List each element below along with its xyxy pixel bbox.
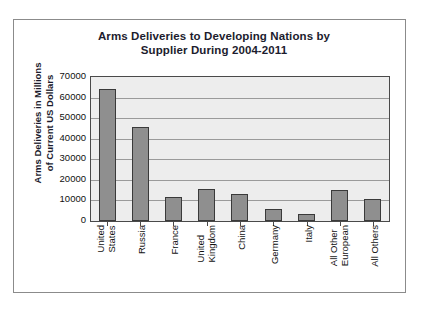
bar[interactable] xyxy=(132,127,149,221)
x-axis-tick-label-line-1: All Others xyxy=(369,225,380,267)
y-axis-tick-label: 10000 xyxy=(38,194,86,204)
x-slot: France xyxy=(157,223,190,309)
y-axis-tick-label: 60000 xyxy=(38,92,86,102)
x-axis-tick-label: UnitedStates xyxy=(95,225,117,252)
x-axis-tick-label-line-1: France xyxy=(169,225,180,255)
bar[interactable] xyxy=(298,214,315,221)
x-slot: UnitedStates xyxy=(90,223,123,309)
bar-slot xyxy=(223,77,256,221)
bar-slot xyxy=(157,77,190,221)
x-axis-tick-label-line-2: European xyxy=(339,225,350,266)
bar[interactable] xyxy=(231,194,248,221)
bar-slot xyxy=(124,77,157,221)
chart-figure: Arms Deliveries to Developing Nations by… xyxy=(0,0,429,313)
y-axis-tick-labels: 700006000050000400003000020000100000 xyxy=(38,70,86,228)
x-slot: All OtherEuropean xyxy=(323,223,356,309)
x-slot: Russia xyxy=(123,223,156,309)
x-axis-tick-label-line-1: All Other xyxy=(328,229,339,266)
x-axis-tick-label-line-1: Russia xyxy=(136,225,147,254)
x-axis-tick-label-line-1: Italy xyxy=(303,225,314,242)
x-axis-tick-label: All Others xyxy=(369,225,380,267)
bar-slot xyxy=(190,77,223,221)
x-axis-tick-label: France xyxy=(169,225,180,255)
bar[interactable] xyxy=(265,209,282,221)
bar-slot xyxy=(257,77,290,221)
x-axis-tick-label-line-2: States xyxy=(106,225,117,252)
x-axis-tick-label: UnitedKingdom xyxy=(195,225,217,263)
x-axis-tick-label: Russia xyxy=(136,225,147,254)
chart-title: Arms Deliveries to Developing Nations by… xyxy=(64,29,364,57)
bar-slot xyxy=(290,77,323,221)
x-slot: UnitedKingdom xyxy=(190,223,223,309)
x-axis-tick-label: Italy xyxy=(303,225,314,242)
x-axis-tick-label-line-2: Kingdom xyxy=(206,225,217,263)
y-axis-tick-label: 40000 xyxy=(38,133,86,143)
y-axis-tick-label: 30000 xyxy=(38,153,86,163)
y-axis-tick-label: 50000 xyxy=(38,112,86,122)
x-axis-tick-labels: UnitedStatesRussiaFranceUnitedKingdomChi… xyxy=(90,223,390,309)
x-axis-tick-label-line-1: United xyxy=(195,235,206,262)
bar[interactable] xyxy=(198,189,215,221)
bar-series xyxy=(91,77,389,221)
y-axis-tick-label: 20000 xyxy=(38,174,86,184)
bar-slot xyxy=(356,77,389,221)
bar[interactable] xyxy=(364,199,381,221)
x-slot: Italy xyxy=(290,223,323,309)
x-slot: Germany xyxy=(257,223,290,309)
bar[interactable] xyxy=(99,89,116,221)
x-axis-tick-label: Germany xyxy=(269,225,280,264)
x-slot: All Others xyxy=(357,223,390,309)
x-slot: China xyxy=(223,223,256,309)
bar[interactable] xyxy=(165,197,182,221)
chart-border-frame: Arms Deliveries to Developing Nations by… xyxy=(13,19,406,293)
y-axis-tick-label: 70000 xyxy=(38,71,86,81)
x-axis-tick-label-line-1: China xyxy=(236,225,247,250)
bar[interactable] xyxy=(331,190,348,221)
chart-title-line-1: Arms Deliveries to Developing Nations by xyxy=(98,30,330,42)
bar-slot xyxy=(91,77,124,221)
x-axis-tick-label-line-1: United xyxy=(95,225,106,252)
y-axis-tick-label: 0 xyxy=(38,215,86,225)
x-axis-tick-label: All OtherEuropean xyxy=(328,225,350,266)
x-axis-tick-label-line-1: Germany xyxy=(269,225,280,264)
bar-slot xyxy=(323,77,356,221)
plot-area xyxy=(90,76,390,222)
chart-title-line-2: Supplier During 2004-2011 xyxy=(141,44,287,56)
x-axis-tick-label: China xyxy=(236,225,247,250)
